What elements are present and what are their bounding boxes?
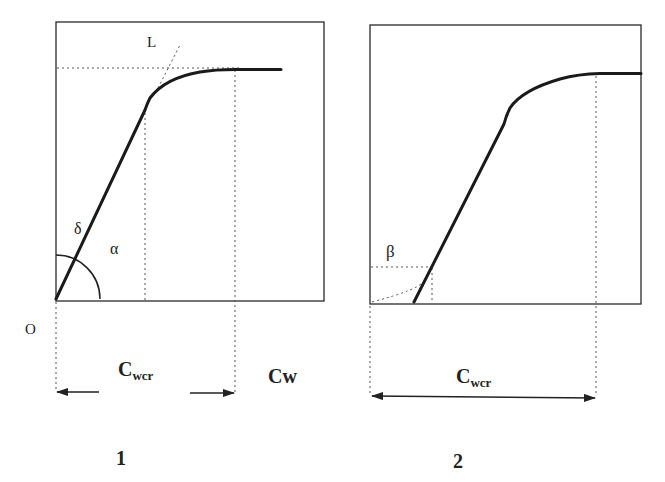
alpha-label: α (110, 240, 119, 257)
figure-canvas: L δ α O Cwcr Cw 1 β Cwcr 2 (0, 0, 665, 482)
panel-2: β Cwcr 2 (370, 25, 641, 472)
panel-1-frame (56, 22, 324, 301)
panel-2-caption: 2 (453, 450, 463, 472)
cw-axis-label: Cw (268, 365, 297, 387)
panel-1-caption: 1 (116, 447, 126, 469)
cwcr-label-1: Cwcr (118, 358, 154, 383)
cwcr-double-arrow (372, 396, 595, 398)
origin-label: O (25, 321, 36, 337)
panel-1: L δ α O Cwcr Cw 1 (25, 22, 324, 469)
delta-label: δ (74, 220, 82, 237)
panel-2-frame (370, 25, 641, 304)
panel-1-curve (56, 70, 281, 300)
panel-2-curve (414, 74, 641, 303)
tangent-label: L (147, 34, 156, 50)
angle-arc (56, 255, 100, 299)
cwcr-label-2: Cwcr (456, 365, 492, 390)
beta-label: β (386, 242, 395, 261)
